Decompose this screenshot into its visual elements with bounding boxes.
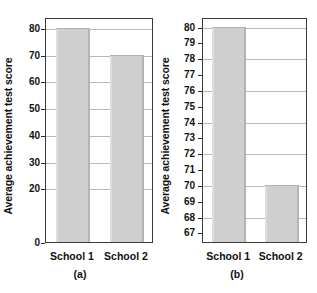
y-tick-label: 77 xyxy=(184,70,195,80)
x-tick-label: School 1 xyxy=(50,250,94,262)
bar-school-1 xyxy=(56,28,90,242)
y-tick-label: 0 xyxy=(34,238,40,248)
panel-a: Average achievement test score 020304050… xyxy=(0,0,160,293)
bar-school-1 xyxy=(212,27,246,242)
y-tick-label: 78 xyxy=(184,54,195,64)
y-tick-label: 76 xyxy=(184,86,195,96)
y-tick-label: 80 xyxy=(29,24,40,34)
y-tick-label: 72 xyxy=(184,149,195,159)
y-tick-label: 73 xyxy=(184,133,195,143)
y-tick-label: 50 xyxy=(29,104,40,114)
figure-two-bar-charts: Average achievement test score 020304050… xyxy=(0,0,317,293)
x-tick-label: School 1 xyxy=(206,250,250,262)
x-tick-label: School 2 xyxy=(259,250,303,262)
y-tick-label: 20 xyxy=(29,184,40,194)
panel-a-y-axis-title-text: Average achievement test score xyxy=(2,57,14,214)
y-tick-label: 67 xyxy=(184,228,195,238)
y-tick-label: 60 xyxy=(29,77,40,87)
y-tick-label: 30 xyxy=(29,158,40,168)
y-tick-label: 70 xyxy=(29,51,40,61)
panel-a-caption: (a) xyxy=(0,268,160,280)
y-tick-label: 80 xyxy=(184,23,195,33)
panel-a-y-tick-labels: 020304050607080 xyxy=(14,0,40,293)
y-tick-label: 75 xyxy=(184,102,195,112)
y-tick-label: 70 xyxy=(184,181,195,191)
y-tick-label: 74 xyxy=(184,118,195,128)
panel-a-y-axis-title: Average achievement test score xyxy=(1,18,15,254)
y-tick-label: 69 xyxy=(184,197,195,207)
y-tick-label: 71 xyxy=(184,165,195,175)
y-tick-label: 79 xyxy=(184,38,195,48)
bar-school-2 xyxy=(110,55,144,243)
x-tick-label: School 2 xyxy=(104,250,148,262)
panel-b-y-tick-labels: 6768697071727374757677787980 xyxy=(169,0,195,293)
bar-school-2 xyxy=(265,185,299,242)
y-tick-label: 68 xyxy=(184,213,195,223)
panel-a-plot-area xyxy=(45,18,153,243)
y-tick-label: 40 xyxy=(29,131,40,141)
panel-b-caption: (b) xyxy=(157,268,317,280)
panel-b-plot-area xyxy=(202,18,307,243)
y-tick-mark xyxy=(41,243,45,244)
panel-b: Average achievement test score 676869707… xyxy=(157,0,317,293)
